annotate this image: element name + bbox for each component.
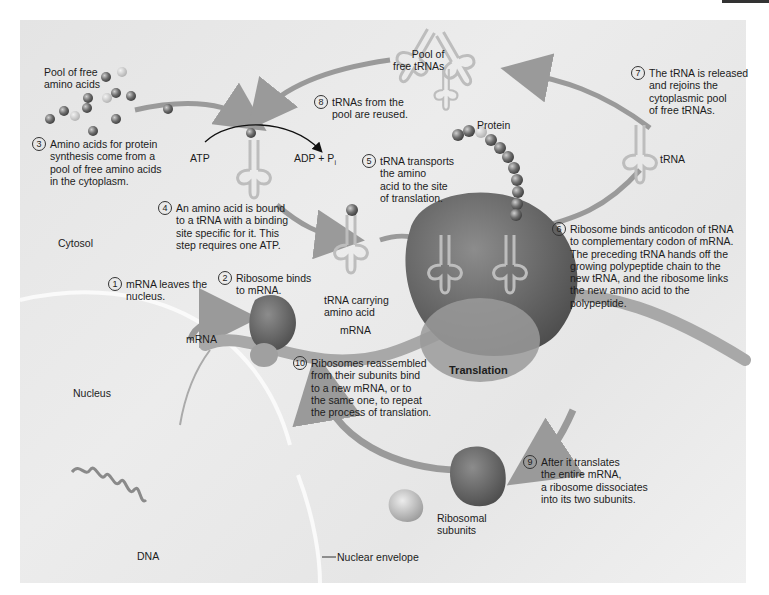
ribosome-small-subunit-free <box>389 489 424 522</box>
step-text-5: tRNA transports the amino acid to the si… <box>380 155 454 204</box>
pi-subscript: i <box>334 159 336 166</box>
step-number-7: 7 <box>631 66 645 80</box>
label-cytosol: Cytosol <box>58 237 93 249</box>
step-text-9: After it translates the entire mRNA, a r… <box>541 456 648 505</box>
step-text-7: The tRNA is released and rejoins the cyt… <box>649 67 748 116</box>
label-translation: Translation <box>449 364 508 376</box>
step-number-1: 1 <box>108 277 122 291</box>
step-1: 1 mRNA leaves the nucleus. <box>108 278 207 303</box>
step-6: 6 Ribosome binds anticodon of tRNA to co… <box>552 223 733 309</box>
step-text-2: Ribosome binds to mRNA. <box>236 272 311 297</box>
label-atp: ATP <box>190 152 210 164</box>
step-text-6: Ribosome binds anticodon of tRNA to comp… <box>570 223 733 309</box>
label-nucleus: Nucleus <box>73 387 111 399</box>
step-text-8: tRNAs from the pool are reused. <box>332 96 408 121</box>
ribosome-binding <box>249 295 296 351</box>
label-pool-trnas: Pool of free tRNAs <box>393 48 444 73</box>
step-text-1: mRNA leaves the nucleus. <box>126 278 207 303</box>
step-number-6: 6 <box>552 222 566 236</box>
step-number-9: 9 <box>523 455 537 469</box>
label-mrna-center: mRNA <box>340 324 371 336</box>
step-7: 7 The tRNA is released and rejoins the c… <box>631 67 748 116</box>
label-protein: Protein <box>477 119 510 131</box>
step-number-5: 5 <box>362 154 376 168</box>
label-mrna-left: mRNA <box>186 333 217 345</box>
label-trna-carrying-amino-acid: tRNA carrying amino acid <box>324 294 389 319</box>
step-8: 8 tRNAs from the pool are reused. <box>314 96 408 121</box>
label-pool-amino-acids: Pool of free amino acids <box>44 66 100 91</box>
label-nuclear-envelope: Nuclear envelope <box>337 551 419 563</box>
dna-helix <box>72 468 146 501</box>
step-3: 3 Amino acids for protein synthesis come… <box>32 138 161 187</box>
step-number-4: 4 <box>158 201 172 215</box>
label-ribosomal-subunits: Ribosomal subunits <box>437 512 487 537</box>
step-9: 9 After it translates the entire mRNA, a… <box>523 456 648 505</box>
step-number-3: 3 <box>32 137 46 151</box>
nuclear-envelope <box>20 292 290 445</box>
label-trna: tRNA <box>660 153 685 165</box>
step-text-10: Ribosomes reassembled from their subunit… <box>311 357 431 418</box>
step-number-8: 8 <box>314 95 328 109</box>
step-number-10: 10 <box>293 356 307 370</box>
atp-text: ATP <box>190 152 210 164</box>
step-4: 4 An amino acid is bound to a tRNA with … <box>158 202 288 251</box>
label-adp-pi: ADP + Pi <box>294 152 336 169</box>
step-5: 5 tRNA transports the amino acid to the … <box>362 155 454 204</box>
step-text-4: An amino acid is bound to a tRNA with a … <box>176 202 288 251</box>
step-text-3: Amino acids for protein synthesis come f… <box>50 138 161 187</box>
ribosome-large-subunit <box>450 447 506 507</box>
step-10: 10 Ribosomes reassembled from their subu… <box>293 357 431 418</box>
label-dna: DNA <box>137 550 159 562</box>
step-2: 2 Ribosome binds to mRNA. <box>218 272 311 297</box>
adp-text: ADP + P <box>294 152 334 164</box>
step-number-2: 2 <box>218 271 232 285</box>
